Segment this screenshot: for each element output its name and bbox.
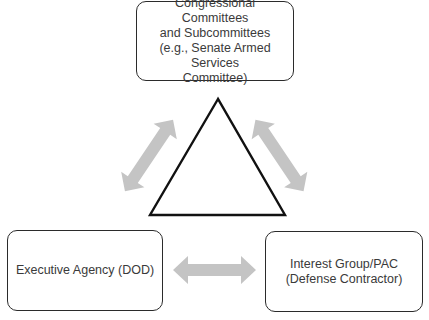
node-top-line-4: Committee) bbox=[183, 71, 248, 86]
node-top-line-3: (e.g., Senate Armed Services bbox=[141, 41, 289, 71]
arrow-left-right-bidirectional bbox=[173, 256, 256, 284]
congressional-committees-node: Congressional Committees and Subcommitte… bbox=[136, 1, 294, 81]
central-triangle bbox=[150, 99, 285, 215]
node-top-line-1: Congressional Committees bbox=[141, 0, 289, 26]
interest-group-node: Interest Group/PAC (Defense Contractor) bbox=[265, 231, 423, 312]
node-right-line-2: (Defense Contractor) bbox=[286, 272, 403, 287]
node-right-line-1: Interest Group/PAC bbox=[290, 257, 398, 272]
executive-agency-node: Executive Agency (DOD) bbox=[7, 230, 163, 311]
node-left-line-1: Executive Agency (DOD) bbox=[16, 263, 154, 278]
node-top-line-2: and Subcommittees bbox=[160, 26, 270, 41]
